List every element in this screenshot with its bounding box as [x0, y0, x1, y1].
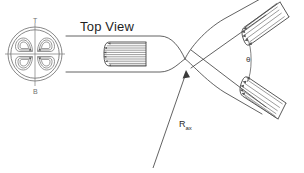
- radius-subscript: ax: [186, 125, 192, 131]
- upper-branch-velocity-profile: [241, 2, 289, 45]
- main-duct-velocity-profile: [103, 42, 146, 66]
- lower-branch-velocity-profile: [240, 77, 286, 119]
- inlet-cross-section: [5, 23, 65, 86]
- top-view-label: Top View: [80, 20, 134, 33]
- radius-arrowhead: [183, 70, 190, 78]
- diagram-canvas: [0, 0, 304, 173]
- theta-angle-label: θ: [246, 56, 250, 64]
- radius-axial-label: Rax: [179, 120, 191, 131]
- profile-base-upper: [280, 2, 289, 17]
- main-duct-walls: [66, 0, 262, 114]
- figure-root: Top View θ Rax T B: [0, 0, 304, 173]
- upper-branch: [191, 2, 289, 68]
- profile-outline-upper: [242, 2, 289, 45]
- cross-section-bottom-label: B: [33, 88, 38, 95]
- lower-branch: [191, 50, 286, 119]
- cross-section-top-label: T: [33, 17, 37, 24]
- lower-branch-inner-wall: [191, 50, 266, 107]
- duct-wall-lower: [66, 59, 262, 114]
- profile-base-lower: [278, 103, 286, 119]
